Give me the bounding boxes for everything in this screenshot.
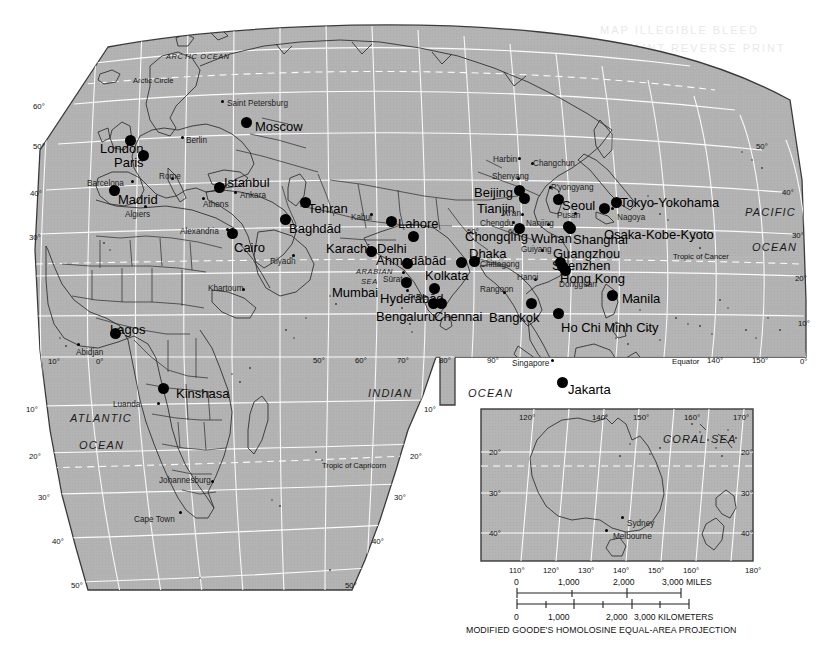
city-dot-minor (77, 343, 80, 346)
city-dot-minor (551, 359, 554, 362)
city-dot-major (519, 193, 530, 204)
city-dot-minor (534, 278, 537, 281)
city-dot-major (402, 258, 413, 269)
city-dot-major (526, 298, 537, 309)
city-dot-minor (171, 177, 174, 180)
world-map-figure: MAP ILLEGIBLE BLEED FAINT REVERSE PRINT (0, 0, 829, 653)
city-dot-minor (518, 157, 521, 160)
city-dot-minor (226, 228, 229, 231)
city-dot-minor (503, 291, 506, 294)
city-dot-minor (179, 511, 182, 514)
city-dot-major (401, 277, 412, 288)
city-dot-major (565, 223, 576, 234)
city-dot-major (366, 246, 377, 257)
scale-bar-graphic (517, 588, 689, 609)
city-dot-minor (292, 254, 295, 257)
city-dot-minor (370, 213, 373, 216)
city-dot-major (280, 214, 291, 225)
city-dot-minor (477, 257, 480, 260)
city-dot-major (599, 203, 610, 214)
city-dot-minor (549, 186, 552, 189)
city-dot-minor (157, 402, 160, 405)
city-dot-minor (531, 162, 534, 165)
city-dot-major (560, 265, 571, 276)
city-dot-minor (547, 223, 550, 226)
inset-map-australia (481, 409, 753, 561)
city-dot-minor (131, 180, 134, 183)
city-dot-major (611, 197, 622, 208)
city-dot-major (214, 182, 225, 193)
city-dot-major (125, 135, 136, 146)
city-dot-minor (541, 249, 544, 252)
city-dot-major (553, 308, 564, 319)
city-dot-major (241, 117, 252, 128)
city-dot-minor (242, 288, 245, 291)
city-dot-minor (402, 271, 405, 274)
city-dot-major (514, 223, 525, 234)
city-dot-minor (221, 100, 224, 103)
city-dot-major (109, 185, 120, 196)
inset-city-dot (621, 516, 624, 519)
city-dot-major (138, 150, 149, 161)
city-dot-major (607, 290, 618, 301)
city-dot-minor (517, 177, 520, 180)
city-dot-major (456, 257, 467, 268)
city-dot-major (158, 383, 169, 394)
city-dot-minor (521, 213, 524, 216)
city-dot-major (553, 194, 564, 205)
city-dot-minor (181, 136, 184, 139)
city-dot-minor (562, 271, 565, 274)
city-dot-major (300, 197, 311, 208)
city-dot-major (408, 231, 419, 242)
city-dot-major (429, 283, 440, 294)
city-dot-major (110, 328, 121, 339)
inset-city-dot (605, 529, 608, 532)
city-dot-minor (611, 207, 614, 210)
city-dot-minor (512, 221, 515, 224)
city-dot-minor (234, 191, 237, 194)
city-dot-minor (144, 205, 147, 208)
city-dot-major (386, 216, 397, 227)
city-dot-major (428, 298, 439, 309)
city-dot-major (557, 377, 568, 388)
city-dot-minor (406, 289, 409, 292)
city-dot-minor (211, 480, 214, 483)
city-dot-minor (202, 197, 205, 200)
city-dot-minor (574, 212, 577, 215)
map-canvas (0, 0, 829, 653)
